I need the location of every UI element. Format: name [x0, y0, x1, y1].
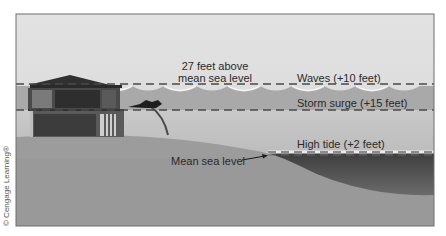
- mean-sea-level-label: Mean sea level: [171, 155, 245, 167]
- storm-surge-diagram: 27 feet above mean sea level Waves (+10 …: [0, 0, 446, 236]
- total-height-line1: 27 feet above: [160, 60, 270, 72]
- diagram-illustration: [0, 0, 446, 236]
- waves-label: Waves (+10 feet): [297, 72, 381, 84]
- total-height-label: 27 feet above mean sea level: [160, 60, 270, 84]
- storm-surge-label: Storm surge (+15 feet): [297, 97, 407, 109]
- total-height-line2: mean sea level: [160, 72, 270, 84]
- copyright-credit: © Cengage Learning®: [2, 146, 11, 226]
- high-tide-label: High tide (+2 feet): [297, 138, 385, 150]
